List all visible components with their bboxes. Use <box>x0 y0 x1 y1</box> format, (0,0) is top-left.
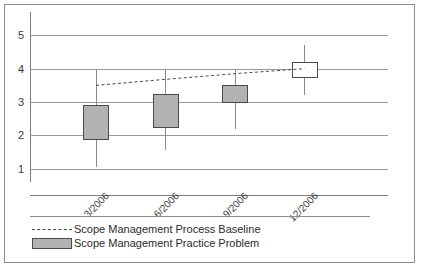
x-axis-line <box>30 195 388 196</box>
box-rect <box>153 94 179 128</box>
dashed-line-icon <box>30 229 74 230</box>
gridline <box>30 69 388 70</box>
y-tick-label: 3 <box>18 97 24 108</box>
y-tick-label: 2 <box>18 130 24 141</box>
legend-label-practice-problem: Scope Management Practice Problem <box>74 237 259 249</box>
chart-legend: Scope Management Process Baseline Scope … <box>30 222 370 250</box>
gridline <box>30 35 388 36</box>
y-tick-label: 5 <box>18 30 24 41</box>
box-rect <box>222 85 248 103</box>
box-rect <box>83 105 109 140</box>
plot-area: 12345 3/20066/20069/200612/2006 <box>30 22 388 182</box>
y-tick-label: 1 <box>18 163 24 174</box>
gray-swatch-icon <box>30 238 74 249</box>
baseline-polyline <box>96 69 305 86</box>
legend-item-baseline: Scope Management Process Baseline <box>30 222 370 236</box>
y-axis-line <box>30 12 31 182</box>
legend-divider <box>30 216 370 217</box>
legend-label-baseline: Scope Management Process Baseline <box>74 223 261 235</box>
gridline <box>30 102 388 103</box>
chart-figure: 12345 3/20066/20069/200612/2006 Scope Ma… <box>0 0 421 268</box>
y-tick-label: 4 <box>18 63 24 74</box>
gridline <box>30 169 388 170</box>
legend-item-practice-problem: Scope Management Practice Problem <box>30 236 370 250</box>
box-rect <box>292 62 318 78</box>
